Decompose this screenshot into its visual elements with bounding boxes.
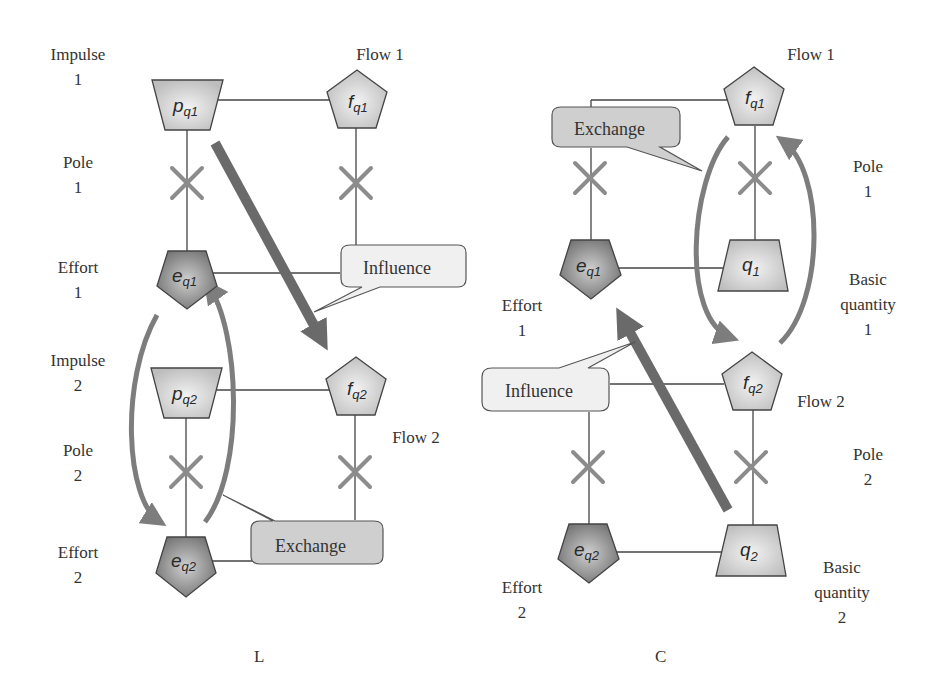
connector-lines <box>589 100 755 552</box>
label-pole-1: Pole 1 <box>38 150 118 200</box>
influence-arrow <box>215 143 322 340</box>
node-p-q1: pq1 <box>152 80 223 130</box>
label-pole-2: Pole 2 <box>38 438 118 488</box>
node-f-q1: fq1 <box>724 67 784 125</box>
label-effort-2: Effort 2 <box>38 540 118 590</box>
label-impulse-2: Impulse 2 <box>38 348 118 398</box>
label-flow-1: Flow 1 <box>345 42 415 67</box>
node-q-1: q1 <box>718 240 788 291</box>
pole-crosses <box>573 163 770 482</box>
svg-text:Influence: Influence <box>363 258 431 278</box>
panel-l: pq1 fq1 eq1 pq2 fq2 eq2 Influence <box>131 70 466 666</box>
label-effort-1: Effort 1 <box>487 293 557 343</box>
node-f-q1: fq1 <box>327 70 387 128</box>
svg-text:Exchange: Exchange <box>275 536 346 556</box>
svg-text:Exchange: Exchange <box>574 119 645 139</box>
label-impulse-1: Impulse 1 <box>38 42 118 92</box>
node-q-2: q2 <box>716 525 786 576</box>
svg-text:Influence: Influence <box>505 381 573 401</box>
label-flow-2: Flow 2 <box>381 425 451 450</box>
pole-crosses <box>171 168 371 487</box>
label-flow-1: Flow 1 <box>776 42 846 67</box>
panel-caption-l: L <box>254 647 264 666</box>
panel-caption-c: C <box>655 647 666 666</box>
connector-lines <box>186 100 356 561</box>
exchange-arrow-down <box>696 137 732 338</box>
influence-arrow <box>622 318 728 510</box>
label-pole-1: Pole 1 <box>838 154 898 204</box>
label-basic-quantity-1: Basic quantity 1 <box>828 267 908 342</box>
node-e-q2: eq2 <box>156 537 216 597</box>
node-f-q2: fq2 <box>722 352 782 410</box>
node-e-q2: eq2 <box>558 524 619 583</box>
exchange-arrow-down <box>131 315 160 522</box>
exchange-arrow-up <box>780 140 814 343</box>
callout-influence-c: Influence <box>482 342 635 411</box>
node-p-q2: pq2 <box>151 368 222 418</box>
label-flow-2: Flow 2 <box>786 389 856 414</box>
node-e-q1: eq1 <box>157 251 217 309</box>
label-effort-2: Effort 2 <box>487 575 557 625</box>
node-e-q1: eq1 <box>560 240 621 299</box>
label-basic-quantity-2: Basic quantity 2 <box>802 555 882 630</box>
callout-exchange-l: Exchange <box>223 495 383 564</box>
callout-influence-l: Influence <box>314 245 466 312</box>
label-effort-1: Effort 1 <box>38 255 118 305</box>
label-pole-2: Pole 2 <box>838 442 898 492</box>
node-f-q2: fq2 <box>326 357 386 415</box>
